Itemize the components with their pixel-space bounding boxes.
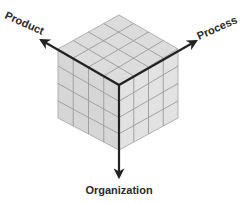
cube-diagram: Product Process Organization (0, 0, 251, 203)
process-label: Process (195, 13, 239, 41)
product-label: Product (3, 9, 46, 37)
organization-label: Organization (85, 184, 153, 196)
